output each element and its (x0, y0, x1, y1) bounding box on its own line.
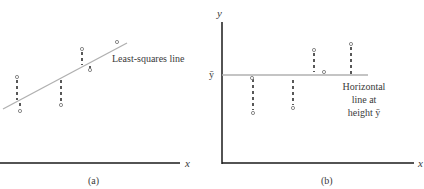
data-points-b (250, 42, 352, 114)
least-squares-label: Least-squares line (112, 53, 185, 64)
x-axis-label-b: x (417, 157, 423, 169)
horizontal-line-label-2: line at (352, 94, 377, 105)
y-axis-label-b: y (216, 7, 222, 19)
least-squares-line (3, 43, 127, 109)
caption-a: (a) (88, 175, 99, 187)
data-points-a (15, 40, 118, 112)
x-axis-label-a: x (184, 157, 190, 169)
caption-b: (b) (321, 175, 333, 187)
residuals-a (17, 52, 90, 109)
residuals-b (253, 47, 351, 110)
panel-a: x (a) Least-squares line (0, 40, 190, 187)
horizontal-line-label-1: Horizontal (343, 81, 386, 92)
panel-b: y x ȳ (b) Horizontal line at height ȳ (209, 7, 423, 187)
figure-canvas: x (a) Least-squares line y x ȳ (b) (0, 0, 424, 189)
ybar-label: ȳ (209, 69, 214, 80)
horizontal-line-label-3: height ȳ (348, 107, 381, 118)
